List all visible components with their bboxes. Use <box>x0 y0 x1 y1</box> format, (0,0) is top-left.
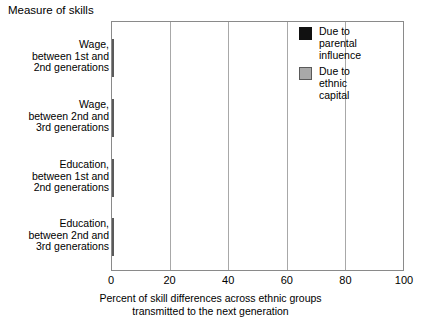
xtick-label-20: 20 <box>150 274 190 286</box>
bar-segment-ethnic[interactable] <box>112 39 114 77</box>
category-label-wage-1st-2nd: Wage, between 1st and 2nd generations <box>0 39 109 74</box>
category-label-line: Wage, <box>0 99 109 111</box>
category-label-line: Education, <box>0 218 109 230</box>
gridline-20 <box>170 22 171 270</box>
legend-label-line: influence <box>319 50 361 62</box>
gridline-60 <box>287 22 288 270</box>
xtick-label-100: 100 <box>384 274 421 286</box>
xtick-label-0: 0 <box>91 274 131 286</box>
legend-label-line: parental <box>319 38 361 50</box>
category-label-education-2nd-3rd: Education, between 2nd and 3rd generatio… <box>0 218 109 253</box>
x-axis-caption-line: transmitted to the next generation <box>0 305 421 318</box>
category-label-line: 2nd generations <box>0 182 109 194</box>
chart-title: Measure of skills <box>8 4 94 17</box>
bar-segment-ethnic[interactable] <box>112 218 114 256</box>
legend: Due to parental influence Due to ethnic … <box>299 26 399 107</box>
x-axis-caption-line: Percent of skill differences across ethn… <box>0 292 421 305</box>
legend-swatch-icon <box>299 27 312 40</box>
category-label-wage-2nd-3rd: Wage, between 2nd and 3rd generations <box>0 99 109 134</box>
gridline-40 <box>228 22 229 270</box>
legend-item-parental-influence[interactable]: Due to parental influence <box>299 26 399 61</box>
bar-segment-ethnic[interactable] <box>112 159 114 197</box>
legend-item-ethnic-capital[interactable]: Due to ethnic capital <box>299 66 399 101</box>
legend-label: Due to parental influence <box>319 26 361 61</box>
xtick-label-60: 60 <box>267 274 307 286</box>
bar-segment-ethnic[interactable] <box>112 99 114 137</box>
category-label-education-1st-2nd: Education, between 1st and 2nd generatio… <box>0 159 109 194</box>
category-label-line: 2nd generations <box>0 62 109 74</box>
legend-label: Due to ethnic capital <box>319 66 350 101</box>
x-axis-caption: Percent of skill differences across ethn… <box>0 292 421 317</box>
legend-swatch-icon <box>299 67 312 80</box>
legend-label-line: capital <box>319 90 350 102</box>
xtick-label-80: 80 <box>325 274 365 286</box>
category-label-line: Wage, <box>0 39 109 51</box>
category-label-line: Education, <box>0 159 109 171</box>
category-label-line: 3rd generations <box>0 122 109 134</box>
category-label-line: 3rd generations <box>0 241 109 253</box>
xtick-label-40: 40 <box>208 274 248 286</box>
skills-bar-chart: Measure of skills <box>0 0 421 327</box>
